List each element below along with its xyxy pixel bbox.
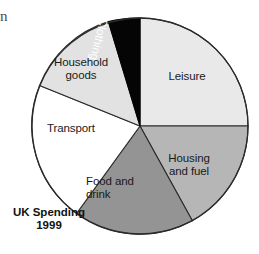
pie-label-transport: Transport	[36, 122, 106, 135]
chart-caption-line1: UK Spending	[13, 206, 85, 218]
chart-caption-line2: 1999	[36, 219, 62, 231]
pie-label-leisure: Leisure	[156, 70, 218, 83]
pie-label-household-goods: Householdgoods	[44, 56, 118, 81]
pie-chart-figure: n Leisure Housingand fuel Food anddrink …	[0, 0, 259, 254]
pie-label-food-and-drink: Food anddrink	[86, 175, 152, 200]
pie-label-housing-line1: Housing	[168, 152, 210, 164]
pie-label-food-line1: Food and	[86, 175, 134, 187]
chart-caption: UK Spending1999	[2, 206, 96, 232]
pie-label-housing-and-fuel: Housingand fuel	[154, 152, 224, 177]
pie-label-food-line2: drink	[86, 188, 110, 200]
pie-label-housing-line2: and fuel	[169, 165, 209, 177]
